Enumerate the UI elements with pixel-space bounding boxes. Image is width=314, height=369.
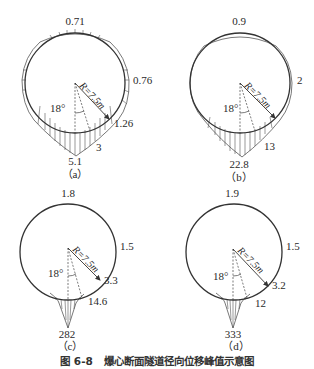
value-bottom-right: 13 [264, 140, 276, 152]
value-bottom: 333 [225, 328, 242, 340]
value-top: 1.9 [225, 187, 239, 199]
angle-arc [233, 274, 241, 276]
panel-label: （d） [222, 340, 250, 352]
value-right: 1.5 [120, 240, 134, 252]
displacement-envelope [22, 34, 129, 156]
angle-label: 18° [223, 102, 238, 114]
radius-label: R=7.5m [235, 244, 267, 276]
panel-c: R=7.5m 18° 1.8 1.5 3.3 14.6 282 （c） [20, 187, 134, 352]
value-lower-right: 3.2 [272, 279, 286, 291]
panel-b: R=7.5m 18° 0.9 2 13 22.8 （b） [190, 15, 303, 183]
figure-canvas: R=7.5m 18° 0.71 0.76 1.26 3 5.1 （a） [0, 0, 314, 369]
figure-caption: 图 6-8 爆心断面隧道径向位移峰值示意图 [60, 355, 254, 367]
angle-label: 18° [48, 267, 63, 279]
radius-label: R=7.5m [70, 243, 102, 275]
angle-label: 18° [50, 102, 65, 114]
radius-label: R=7.5m [242, 79, 274, 111]
value-bottom: 282 [59, 328, 76, 340]
value-bottom: 5.1 [68, 155, 82, 167]
value-right: 2 [297, 74, 303, 86]
value-right: 0.76 [133, 74, 153, 86]
value-top: 0.71 [65, 15, 84, 27]
value-bottom: 22.8 [229, 158, 249, 170]
panel-label: （b） [225, 171, 253, 183]
hatching [22, 29, 129, 155]
value-lower-right: 3.3 [104, 274, 118, 286]
value-right: 1.5 [286, 240, 300, 252]
panel-a: R=7.5m 18° 0.71 0.76 1.26 3 5.1 （a） [22, 15, 153, 180]
radius-label: R=7.5m [77, 79, 108, 111]
panel-label: （c） [57, 340, 84, 352]
angle-arc [75, 111, 84, 113]
displacement-envelope [190, 37, 292, 157]
value-lower-right: 1.26 [114, 117, 134, 129]
angle-arc [68, 274, 76, 276]
panel-label: （a） [62, 168, 89, 180]
value-bottom-right: 12 [255, 297, 266, 309]
angle-label: 18° [213, 270, 228, 282]
value-top: 0.9 [232, 15, 246, 27]
value-top: 1.8 [61, 187, 75, 199]
value-bottom-right: 14.6 [88, 295, 108, 307]
value-bottom-right: 3 [96, 141, 102, 153]
panel-d: R=7.5m 18° 1.9 1.5 3.2 12 333 （d） [186, 187, 300, 352]
angle-arc [240, 111, 249, 113]
